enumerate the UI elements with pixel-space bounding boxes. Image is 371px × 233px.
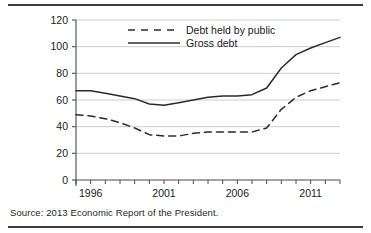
legend-label: Debt held by public	[186, 24, 275, 36]
x-axis-tick-label: 2006	[226, 187, 250, 199]
source-note: Source: 2013 Economic Report of the Pres…	[10, 207, 218, 218]
y-axis-tick-label: 0	[62, 174, 68, 186]
y-axis: 020406080100120	[50, 14, 76, 186]
x-axis-tick-label: 2011	[299, 187, 322, 199]
figure-bottom-rule	[8, 226, 363, 228]
figure-container: 020406080100120 1996200120062011 Debt he…	[0, 0, 371, 233]
chart-plot-area: 020406080100120 1996200120062011 Debt he…	[0, 8, 371, 200]
y-axis-tick-label: 40	[56, 120, 68, 132]
line-chart: 020406080100120 1996200120062011 Debt he…	[0, 8, 371, 200]
y-axis-tick-label: 80	[56, 67, 68, 79]
y-axis-tick-label: 100	[50, 40, 68, 52]
data-series-group	[76, 37, 340, 136]
x-axis: 1996200120062011	[76, 180, 340, 199]
y-axis-tick-label: 20	[56, 147, 68, 159]
series-line-debt-held-by-public	[76, 83, 340, 136]
legend-label: Gross debt	[186, 37, 237, 49]
x-axis-tick-label: 2001	[152, 187, 176, 199]
y-axis-tick-label: 60	[56, 94, 68, 106]
chart-legend: Debt held by publicGross debt	[128, 24, 275, 49]
y-axis-tick-label: 120	[50, 14, 68, 26]
figure-top-rule	[8, 4, 363, 6]
x-axis-tick-label: 1996	[79, 187, 103, 199]
